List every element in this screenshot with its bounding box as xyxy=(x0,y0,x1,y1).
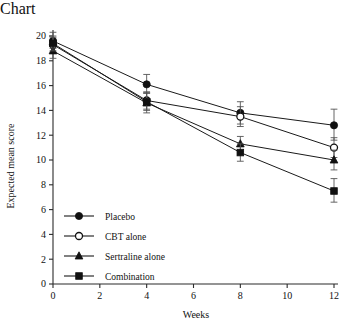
x-tick-label: 10 xyxy=(282,290,292,301)
y-tick-label: 14 xyxy=(36,105,46,116)
x-tick-label: 8 xyxy=(238,290,243,301)
y-tick-label: 12 xyxy=(36,130,46,141)
x-axis-title: Weeks xyxy=(183,309,210,320)
y-tick-label: 20 xyxy=(36,30,46,41)
legend-label: Sertraline alone xyxy=(105,252,165,262)
y-tick-label: 18 xyxy=(36,55,46,66)
y-tick-label: 16 xyxy=(36,80,46,91)
chart-background xyxy=(0,18,362,322)
y-axis-title: Expected mean score xyxy=(5,123,16,209)
data-point-open-circle xyxy=(237,113,244,120)
y-tick-label: 2 xyxy=(41,254,46,265)
x-tick-label: 6 xyxy=(191,290,196,301)
legend-label: CBT alone xyxy=(105,232,146,242)
data-point-filled-square xyxy=(50,40,57,47)
data-point-filled-circle xyxy=(143,81,150,88)
legend-label: Placebo xyxy=(105,212,135,222)
legend-label: Combination xyxy=(105,272,155,282)
data-point-filled-square xyxy=(143,98,150,105)
data-point-filled-circle xyxy=(75,212,82,219)
data-point-open-circle xyxy=(76,233,83,240)
x-tick-label: 4 xyxy=(144,290,149,301)
y-tick-label: 4 xyxy=(41,229,46,240)
data-point-filled-square xyxy=(76,273,83,280)
x-tick-label: 12 xyxy=(329,290,339,301)
data-point-filled-circle xyxy=(330,122,337,129)
y-tick-label: 0 xyxy=(41,278,46,289)
data-point-filled-square xyxy=(331,188,338,195)
expected-mean-score-line-chart: 02468101214161820024681012 PlaceboCBT al… xyxy=(0,18,362,322)
y-tick-label: 6 xyxy=(41,204,46,215)
x-tick-label: 0 xyxy=(51,290,56,301)
data-point-filled-square xyxy=(237,149,244,156)
chart-figure: 02468101214161820024681012 PlaceboCBT al… xyxy=(0,18,362,322)
x-tick-label: 2 xyxy=(97,290,102,301)
y-tick-label: 8 xyxy=(41,179,46,190)
y-tick-label: 10 xyxy=(36,154,46,165)
